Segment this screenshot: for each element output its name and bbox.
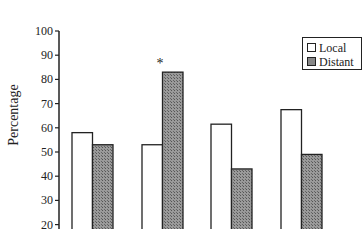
y-tick-label: 80 <box>25 73 53 85</box>
bar-distant <box>163 72 184 229</box>
y-tick-label: 100 <box>25 25 53 37</box>
bar-local <box>142 145 163 229</box>
bar-distant <box>302 154 323 229</box>
distant-swatch-icon <box>307 57 316 66</box>
legend-item-local: Local <box>307 42 346 54</box>
y-axis <box>55 31 59 229</box>
y-tick-label: 90 <box>25 49 53 61</box>
bar-distant <box>232 169 253 229</box>
y-tick-label: 50 <box>25 146 53 158</box>
legend: Local Distant <box>302 37 362 70</box>
y-tick-label: 30 <box>25 194 53 206</box>
bar-local <box>211 124 232 229</box>
y-tick-label: 40 <box>25 170 53 182</box>
legend-label-distant: Distant <box>319 55 354 69</box>
y-tick-label: 70 <box>25 98 53 110</box>
y-tick-label: 20 <box>25 219 53 231</box>
bar-distant <box>93 145 114 229</box>
bars <box>72 72 322 229</box>
significance-asterisk: * <box>157 56 164 72</box>
bar-local <box>72 133 93 229</box>
legend-item-distant: Distant <box>307 56 354 68</box>
bar-local <box>281 110 302 229</box>
local-swatch-icon <box>307 43 316 52</box>
y-axis-label: Percentage <box>6 75 26 155</box>
legend-label-local: Local <box>319 41 346 55</box>
y-tick-label: 60 <box>25 122 53 134</box>
